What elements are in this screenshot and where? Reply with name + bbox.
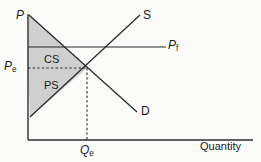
producer-surplus-label: PS [44, 80, 59, 91]
equilibrium-price-subscript: e [12, 65, 17, 74]
supply-demand-diagram: P Pe Pf S D CS PS Qe Quantity [0, 0, 261, 162]
equilibrium-quantity-symbol: Q [80, 143, 89, 157]
supply-curve-label: S [143, 9, 151, 21]
equilibrium-price-label: Pe [4, 60, 17, 74]
diagram-canvas [0, 0, 261, 162]
price-floor-symbol: P [168, 38, 176, 52]
price-floor-subscript: f [176, 44, 178, 53]
demand-curve-label: D [141, 105, 150, 117]
equilibrium-quantity-subscript: e [89, 149, 94, 158]
consumer-surplus-label: CS [44, 54, 59, 65]
producer-surplus-region [28, 68, 87, 117]
y-axis-label: P [16, 9, 24, 21]
equilibrium-quantity-label: Qe [80, 144, 94, 158]
price-floor-label: Pf [168, 39, 178, 53]
equilibrium-price-symbol: P [4, 59, 12, 73]
x-axis-label: Quantity [200, 141, 241, 152]
